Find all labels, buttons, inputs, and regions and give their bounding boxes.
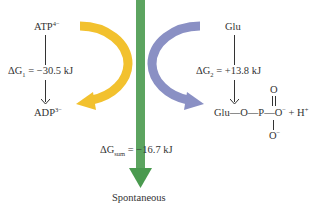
adp-text: ADP xyxy=(34,107,55,118)
arrowhead-down-icon xyxy=(230,99,239,105)
delta-g2-label: ΔG2 = +13.8 kJ xyxy=(196,66,261,79)
delta-g-sum-value: = −16.7 kJ xyxy=(128,144,173,155)
glu-phosphate-product: Glu—O—P—O− + H+ xyxy=(214,108,308,119)
reaction2-arrow-line-top xyxy=(234,35,235,65)
arrowhead-down-icon xyxy=(41,99,50,105)
single-bond-line xyxy=(273,120,274,130)
oxygen-charge: − xyxy=(282,106,286,113)
delta-g1-value: = −30.5 kJ xyxy=(28,65,73,76)
bottom-o-charge: − xyxy=(277,129,281,136)
hydrogen-charge: + xyxy=(305,106,309,113)
double-bond-line-a xyxy=(272,96,273,106)
delta-g2-symbol: ΔG xyxy=(196,65,210,76)
atp-label: ATP4− xyxy=(34,22,60,33)
delta-g-sum-symbol: ΔG xyxy=(100,144,114,155)
reaction1-arrow-line-top xyxy=(45,35,46,65)
bottom-o-text: O xyxy=(269,130,277,141)
delta-g2-sub: 2 xyxy=(210,71,213,78)
delta-g-sum-label: ΔGsum = −16.7 kJ xyxy=(100,145,173,158)
glu-label: Glu xyxy=(225,22,241,33)
delta-g1-sub: 1 xyxy=(22,71,25,78)
adp-charge: 3− xyxy=(55,106,62,113)
delta-g1-label: ΔG1 = −30.5 kJ xyxy=(8,66,73,79)
phosphate-bottom-oxygen: O− xyxy=(269,131,280,142)
glu-text: Glu xyxy=(225,21,241,32)
delta-g1-symbol: ΔG xyxy=(8,65,22,76)
spontaneous-label: Spontaneous xyxy=(112,193,166,204)
delta-g-sum-sub: sum xyxy=(114,150,125,157)
double-bond-line-b xyxy=(275,96,276,106)
atp-text: ATP xyxy=(34,21,53,32)
sum-arrow xyxy=(129,0,152,188)
atp-charge: 4− xyxy=(53,20,60,27)
delta-g2-value: = +13.8 kJ xyxy=(216,65,261,76)
phosphate-top-oxygen: O xyxy=(270,85,278,96)
adp-label: ADP3− xyxy=(34,108,62,119)
plus-hydrogen: + H xyxy=(289,107,305,118)
atp-hydrolysis-arrow xyxy=(76,26,128,110)
product-chain: Glu—O—P—O xyxy=(214,107,282,118)
